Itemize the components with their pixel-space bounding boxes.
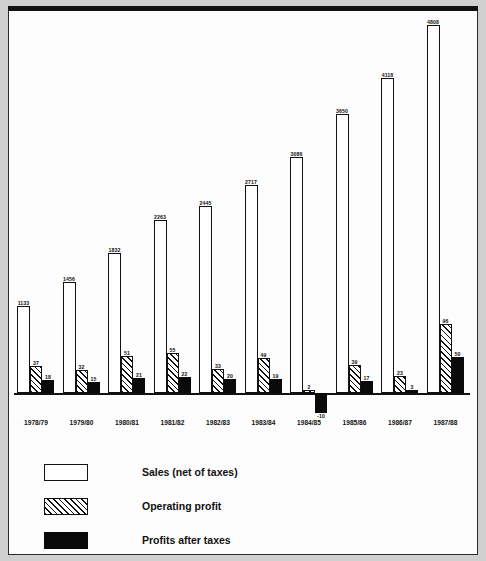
bar-value-label: 2445: [200, 200, 212, 206]
bar-operating-profit: 32: [76, 370, 88, 393]
x-axis-tick-label: 1987/88: [421, 419, 471, 426]
bar-profits-after-taxes: 17: [361, 381, 373, 393]
bar-profits-after-taxes: 21: [133, 378, 145, 393]
x-axis-tick-label: 1981/82: [148, 419, 198, 426]
bar-profits-after-taxes: 15: [88, 382, 100, 393]
bar-profits-after-taxes-wrapper: 15: [88, 382, 100, 393]
bar-group: 14563215: [63, 282, 100, 393]
bar-operating-profit: 51: [121, 356, 133, 393]
bar-sales: 2263: [154, 220, 167, 393]
baseline-axis: [14, 393, 470, 395]
bar-sales: 3650: [336, 114, 349, 393]
bar-value-label: 17: [364, 375, 370, 381]
bar-value-label: 3650: [336, 108, 348, 114]
bar-profits-after-taxes: 20: [224, 379, 236, 393]
bar-operating-profit: 49: [258, 358, 270, 393]
bar-value-label: 49: [261, 352, 267, 358]
bar-value-label: 1133: [18, 300, 30, 306]
bar-profits-after-taxes: -10: [315, 393, 327, 413]
bar-group: 30862-10: [290, 157, 327, 393]
bar-value-label: 1456: [63, 276, 75, 282]
bar-profits-after-taxes-wrapper: 20: [224, 379, 236, 393]
bar-profits-after-taxes: 19: [270, 379, 282, 393]
bar-group: 24453320: [199, 206, 236, 393]
x-axis-tick-label: 1982/83: [193, 419, 243, 426]
legend-item-sales: Sales (net of taxes): [44, 459, 238, 485]
bar-profits-after-taxes-wrapper: 21: [133, 378, 145, 393]
bar-profits-after-taxes-wrapper: 19: [270, 379, 282, 393]
bar-value-label: 4808: [427, 19, 439, 25]
bar-profits-after-taxes: 18: [42, 380, 54, 393]
bar-profits-after-taxes: 3: [406, 390, 418, 393]
bar-value-label: 3086: [291, 151, 303, 157]
bar-profits-after-taxes: 50: [452, 357, 464, 393]
bar-value-label: 50: [455, 351, 461, 357]
bar-value-label: 55: [170, 347, 176, 353]
bar-operating-profit: 23: [394, 376, 406, 393]
bar-sales: 2717: [245, 185, 258, 393]
bar-value-label: 21: [136, 372, 142, 378]
x-axis-tick-label: 1985/86: [330, 419, 380, 426]
bar-value-label: 23: [397, 370, 403, 376]
bar-value-label: 19: [273, 373, 279, 379]
legend: Sales (net of taxes) Operating profit Pr…: [44, 459, 238, 561]
bar-group: 27174919: [245, 185, 282, 393]
legend-label-sales: Sales (net of taxes): [142, 466, 238, 478]
x-axis-tick-label: 1980/81: [102, 419, 152, 426]
bar-operating-profit: 96: [440, 324, 452, 393]
bar-group: 48089650: [427, 25, 464, 393]
legend-swatch-operating-profit-icon: [44, 498, 88, 515]
bar-group: 18325121: [108, 253, 145, 393]
bar-value-label: 18: [45, 374, 51, 380]
bar-value-label: 39: [352, 359, 358, 365]
top-rule: [8, 6, 478, 11]
bar-value-label: 51: [124, 350, 130, 356]
chart-page: 1133371814563215183251212263552224453320…: [0, 0, 486, 561]
bar-sales: 1832: [108, 253, 121, 393]
bar-operating-profit: 37: [30, 366, 42, 393]
bar-value-label: 2: [308, 384, 311, 390]
bar-profits-after-taxes-wrapper: 18: [42, 380, 54, 393]
x-axis-tick-label: 1984/85: [284, 419, 334, 426]
bar-group: 22635522: [154, 220, 191, 393]
bar-sales: 1456: [63, 282, 76, 393]
bar-sales: 1133: [17, 306, 30, 393]
bar-value-label: 15: [91, 376, 97, 382]
bar-profits-after-taxes-wrapper: 3: [406, 390, 418, 393]
bar-operating-profit: 33: [212, 369, 224, 393]
bar-operating-profit: 55: [167, 353, 179, 393]
bar-sales: 3086: [290, 157, 303, 393]
bar-value-label: 2263: [154, 214, 166, 220]
bar-sales: 2445: [199, 206, 212, 393]
bar-profits-after-taxes-wrapper: 50: [452, 357, 464, 393]
legend-swatch-profits-after-taxes-icon: [44, 532, 88, 549]
x-axis-tick-label: 1983/84: [239, 419, 289, 426]
bar-value-label: 32: [79, 364, 85, 370]
bar-profits-after-taxes-wrapper: 22: [179, 377, 191, 393]
bar-value-label: 20: [227, 373, 233, 379]
bar-value-label: 33: [215, 363, 221, 369]
x-axis-tick-label: 1979/80: [57, 419, 107, 426]
bar-operating-profit: 39: [349, 365, 361, 393]
bar-profits-after-taxes: 22: [179, 377, 191, 393]
bar-profits-after-taxes-wrapper: 17: [361, 381, 373, 393]
bar-operating-profit: 2: [303, 390, 315, 393]
legend-label-profits-after-taxes: Profits after taxes: [142, 534, 231, 546]
legend-item-operating-profit: Operating profit: [44, 493, 238, 519]
bar-value-label: 4118: [382, 72, 394, 78]
legend-item-profits-after-taxes: Profits after taxes: [44, 527, 238, 553]
x-axis-tick-label: 1986/87: [375, 419, 425, 426]
legend-label-operating-profit: Operating profit: [142, 500, 221, 512]
bar-value-label: 1832: [109, 247, 121, 253]
bar-value-label: 22: [182, 371, 188, 377]
bar-sales: 4118: [381, 78, 394, 393]
legend-swatch-sales-icon: [44, 464, 88, 481]
bar-sales: 4808: [427, 25, 440, 393]
bar-group: 36503917: [336, 114, 373, 393]
bar-value-label: 37: [33, 360, 39, 366]
bar-group: 11333718: [17, 306, 54, 393]
bar-value-label: 96: [443, 318, 449, 324]
x-axis-tick-label: 1978/79: [11, 419, 61, 426]
bar-value-label: 2717: [245, 179, 257, 185]
bar-value-label: 3: [411, 384, 414, 390]
